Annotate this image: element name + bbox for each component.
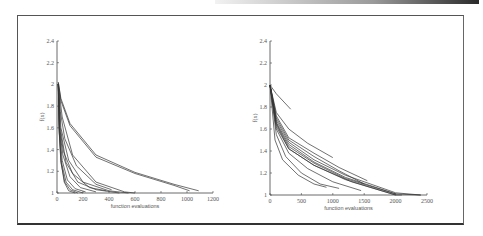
y-tick-label: 1.6 xyxy=(260,126,268,132)
x-tick-label: 500 xyxy=(297,198,306,204)
y-axis-label: f(x) xyxy=(252,114,259,123)
x-tick-label: 800 xyxy=(157,196,166,202)
y-tick-label: 2.4 xyxy=(47,38,55,44)
x-tick-label: 2500 xyxy=(421,198,433,204)
figure-canvas: 02004006008001000120011.21.41.61.822.22.… xyxy=(0,0,483,236)
y-tick-label: 1.4 xyxy=(47,147,55,153)
y-tick-label: 1.4 xyxy=(260,148,268,154)
series-line xyxy=(58,84,111,189)
series-line xyxy=(58,84,128,193)
y-tick-label: 1.6 xyxy=(47,125,55,131)
y-tick-label: 1.8 xyxy=(260,104,268,110)
x-tick-label: 1200 xyxy=(207,196,219,202)
x-tick-label: 0 xyxy=(56,196,59,202)
series-line xyxy=(270,85,402,195)
y-tick-label: 2.2 xyxy=(260,60,268,66)
x-tick-label: 200 xyxy=(79,196,88,202)
y-tick-label: 2 xyxy=(264,82,267,88)
y-tick-label: 1 xyxy=(51,190,54,196)
y-tick-label: 1.2 xyxy=(47,168,55,174)
y-tick-label: 2.2 xyxy=(47,60,55,66)
series-line xyxy=(58,84,106,190)
x-tick-label: 600 xyxy=(131,196,140,202)
y-tick-label: 1.2 xyxy=(260,170,268,176)
y-tick-label: 1 xyxy=(264,192,267,198)
x-tick-label: 0 xyxy=(269,198,272,204)
series-line xyxy=(58,84,85,191)
y-axis-label: f(x) xyxy=(39,113,46,122)
x-tick-label: 1500 xyxy=(358,198,370,204)
x-tick-label: 400 xyxy=(105,196,114,202)
x-tick-label: 1000 xyxy=(181,196,193,202)
right-plot: 0500100015002000250011.21.41.61.822.22.4… xyxy=(252,38,433,211)
left-plot: 02004006008001000120011.21.41.61.822.22.… xyxy=(39,38,219,209)
x-tick-label: 1000 xyxy=(327,198,339,204)
y-tick-label: 2 xyxy=(51,81,54,87)
series-line xyxy=(58,84,119,193)
y-tick-label: 1.8 xyxy=(47,103,55,109)
x-tick-label: 2000 xyxy=(390,198,402,204)
y-tick-label: 2.4 xyxy=(260,38,268,44)
x-axis-label: function evaluations xyxy=(111,203,160,209)
x-axis-label: function evaluations xyxy=(324,205,373,211)
